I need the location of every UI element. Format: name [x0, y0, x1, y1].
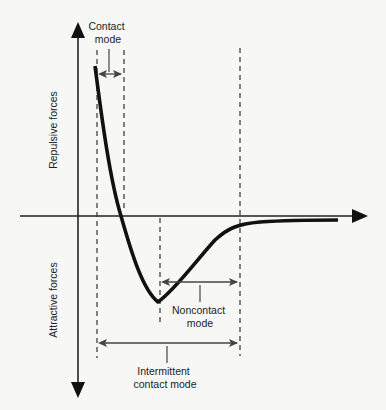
- force-curve: [95, 66, 338, 302]
- intermittent-mode-arrow: [100, 343, 237, 363]
- contact-mode-arrow: [100, 49, 121, 74]
- noncontact-mode-label: Noncontact mode: [172, 304, 228, 329]
- attractive-forces-label: Attractive forces: [47, 262, 59, 337]
- force-distance-diagram: Contact mode Noncontact mode Intermitten…: [0, 0, 386, 410]
- y-axis: [71, 22, 85, 398]
- x-axis-arrow-icon: [352, 209, 368, 223]
- intermittent-mode-label: Intermittent contact mode: [133, 365, 196, 390]
- y-axis-down-arrow-icon: [71, 382, 85, 398]
- contact-mode-label: Contact mode: [88, 20, 127, 45]
- repulsive-forces-label: Repulsive forces: [47, 91, 59, 169]
- y-axis-up-arrow-icon: [71, 22, 85, 38]
